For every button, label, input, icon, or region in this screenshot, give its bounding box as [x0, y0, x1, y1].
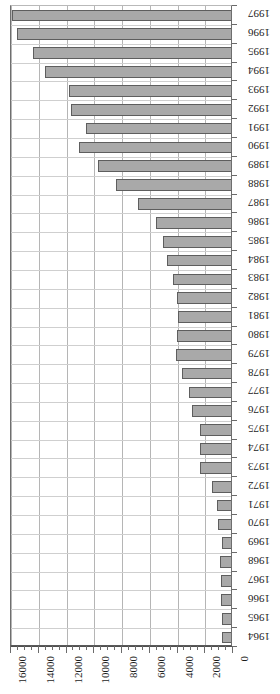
value-tick-minor	[183, 646, 184, 650]
value-tick-minor	[218, 646, 219, 650]
bar	[98, 160, 232, 172]
category-label: 1990	[238, 139, 280, 153]
value-axis-label: 0	[238, 656, 250, 694]
category-label: 1996	[238, 26, 280, 40]
value-tick-major	[38, 646, 39, 653]
bar	[182, 368, 232, 380]
value-axis: 1600014000120001000080006000400020000	[10, 646, 232, 694]
value-tick-minor	[52, 646, 53, 650]
plot-area	[10, 5, 232, 646]
category-label: 1988	[238, 177, 280, 191]
bar	[33, 47, 232, 59]
category-tick	[232, 382, 237, 383]
category-tick	[232, 250, 237, 251]
category-tick	[232, 627, 237, 628]
bar	[221, 594, 232, 606]
category-tick	[232, 571, 237, 572]
category-tick	[232, 608, 237, 609]
category-label: 1995	[238, 45, 280, 59]
bar	[177, 292, 232, 304]
bar	[189, 387, 232, 399]
category-label: 1976	[238, 403, 280, 417]
category-label: 1981	[238, 309, 280, 323]
category-label: 1985	[238, 234, 280, 248]
category-tick	[232, 175, 237, 176]
category-tick	[232, 533, 237, 534]
value-axis-label: 6000	[155, 656, 167, 694]
bar	[45, 66, 232, 78]
category-tick	[232, 363, 237, 364]
category-label: 1969	[238, 535, 280, 549]
category-label: 1994	[238, 64, 280, 78]
category-tick	[232, 231, 237, 232]
value-tick-minor	[31, 646, 32, 650]
category-label: 1992	[238, 102, 280, 116]
bar	[192, 405, 232, 417]
category-tick	[232, 401, 237, 402]
category-tick	[232, 326, 237, 327]
category-tick	[232, 589, 237, 590]
category-tick	[232, 212, 237, 213]
bar	[221, 575, 233, 587]
bar-chart: 1997199619951994199319921991199019891988…	[0, 0, 280, 694]
value-tick-minor	[72, 646, 73, 650]
category-tick	[232, 194, 237, 195]
category-label: 1997	[238, 7, 280, 21]
category-tick	[232, 80, 237, 81]
category-tick	[232, 269, 237, 270]
category-tick	[232, 552, 237, 553]
category-label: 1987	[238, 196, 280, 210]
bar	[86, 123, 232, 135]
value-tick-minor	[86, 646, 87, 650]
value-tick-minor	[225, 646, 226, 650]
category-label: 1964	[238, 630, 280, 644]
bar	[116, 179, 232, 191]
value-tick-minor	[163, 646, 164, 650]
value-tick-major	[232, 646, 233, 653]
category-tick	[232, 288, 237, 289]
category-tick	[232, 118, 237, 119]
category-tick	[232, 344, 237, 345]
value-tick-minor	[107, 646, 108, 650]
bar	[69, 85, 232, 97]
bar	[218, 519, 232, 531]
bar	[222, 632, 232, 644]
category-label: 1991	[238, 121, 280, 135]
bar	[17, 28, 232, 40]
value-tick-minor	[128, 646, 129, 650]
bar	[167, 255, 232, 267]
value-tick-minor	[59, 646, 60, 650]
bar	[222, 613, 232, 625]
value-tick-minor	[190, 646, 191, 650]
bar	[176, 349, 232, 361]
category-tick	[232, 476, 237, 477]
category-tick	[232, 62, 237, 63]
value-tick-major	[93, 646, 94, 653]
bar	[173, 274, 232, 286]
bar	[200, 462, 232, 474]
bar	[71, 104, 232, 116]
category-label: 1968	[238, 554, 280, 568]
value-tick-minor	[100, 646, 101, 650]
bar	[79, 142, 232, 154]
bar	[12, 10, 232, 22]
category-label: 1973	[238, 460, 280, 474]
value-tick-minor	[156, 646, 157, 650]
category-label: 1967	[238, 573, 280, 587]
value-tick-major	[121, 646, 122, 653]
bar	[200, 424, 232, 436]
value-axis-label: 4000	[183, 656, 195, 694]
category-tick	[232, 514, 237, 515]
value-tick-minor	[197, 646, 198, 650]
category-tick	[232, 495, 237, 496]
bar	[220, 556, 232, 568]
bar	[156, 217, 232, 229]
category-label: 1972	[238, 479, 280, 493]
value-tick-major	[204, 646, 205, 653]
category-label: 1971	[238, 498, 280, 512]
value-tick-minor	[45, 646, 46, 650]
value-tick-major	[66, 646, 67, 653]
value-tick-major	[10, 646, 11, 653]
value-tick-major	[149, 646, 150, 653]
value-axis-label: 16000	[16, 656, 28, 694]
